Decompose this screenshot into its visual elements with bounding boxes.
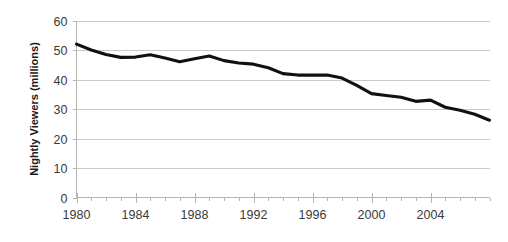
y-tick-label: 60 <box>54 15 68 29</box>
x-tick-label: 1980 <box>63 208 91 222</box>
line-chart-container: 0102030405060 19801984198819921996200020… <box>0 0 508 242</box>
y-tick-label: 10 <box>54 162 68 176</box>
x-tick-label: 1984 <box>122 208 150 222</box>
y-tick-label: 40 <box>54 74 68 88</box>
y-axis-title: Nightly Viewers (millions) <box>28 42 40 176</box>
x-tick-label: 1996 <box>299 208 327 222</box>
x-tick-label: 1988 <box>181 208 209 222</box>
x-tick-label: 2004 <box>417 208 445 222</box>
y-tick-label: 50 <box>54 44 68 58</box>
chart-canvas: 0102030405060 19801984198819921996200020… <box>0 0 508 242</box>
x-tick-label: 1992 <box>240 208 268 222</box>
y-tick-label: 30 <box>54 103 68 117</box>
x-tick-label: 2000 <box>358 208 386 222</box>
y-tick-label: 0 <box>61 192 68 206</box>
y-tick-label: 20 <box>54 133 68 147</box>
